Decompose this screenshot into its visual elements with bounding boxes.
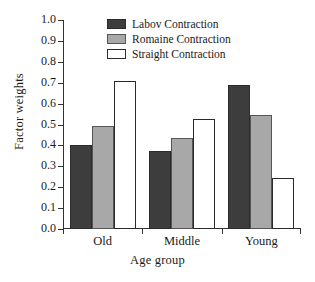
bar <box>193 119 215 229</box>
y-axis-tick <box>58 125 63 126</box>
bar-chart-figure: Factor weights 0.00.10.20.30.40.50.60.70… <box>0 0 315 282</box>
bar <box>149 151 171 229</box>
y-axis-tick-label: 0.1 <box>26 200 56 215</box>
legend-item-label: Romaine Contraction <box>132 33 231 45</box>
y-axis-tick-label: 0.5 <box>26 117 56 132</box>
y-axis-tick <box>58 20 63 21</box>
y-axis-tick-label: 1.0 <box>26 12 56 27</box>
legend-item-label: Labov Contraction <box>132 18 219 30</box>
y-axis-tick-label: 0.8 <box>26 54 56 69</box>
y-axis-tick <box>58 208 63 209</box>
y-axis-tick <box>58 166 63 167</box>
y-axis-tick-label: 0.6 <box>26 96 56 111</box>
legend-swatch-icon <box>107 34 126 44</box>
y-axis-tick-label: 0.0 <box>26 221 56 236</box>
x-axis-tick <box>300 229 301 234</box>
legend-item: Romaine Contraction <box>107 32 231 45</box>
x-axis-tick <box>63 229 64 234</box>
x-axis-tick-label: Middle <box>164 234 200 249</box>
x-axis-tick <box>142 229 143 234</box>
y-axis-title: Factor weights <box>12 52 27 172</box>
x-axis-title: Age group <box>0 253 315 268</box>
legend: Labov ContractionRomaine ContractionStra… <box>107 17 231 60</box>
y-axis-line <box>63 20 64 229</box>
x-axis-tick <box>222 229 223 234</box>
y-axis-tick <box>58 62 63 63</box>
y-axis-tick-label: 0.2 <box>26 179 56 194</box>
bar <box>272 178 294 229</box>
bar <box>228 85 250 229</box>
y-axis-tick-label: 0.7 <box>26 75 56 90</box>
y-axis-tick <box>58 187 63 188</box>
y-axis-tick <box>58 145 63 146</box>
bar <box>92 126 114 229</box>
bar <box>70 145 92 229</box>
legend-item: Labov Contraction <box>107 17 231 30</box>
bar <box>171 138 193 229</box>
legend-swatch-icon <box>107 49 126 59</box>
y-axis-tick-label: 0.3 <box>26 158 56 173</box>
y-axis-tick-label: 0.9 <box>26 33 56 48</box>
y-axis-tick-label: 0.4 <box>26 137 56 152</box>
bar <box>250 115 272 229</box>
y-axis-tick <box>58 83 63 84</box>
bar <box>114 81 136 229</box>
x-axis-tick-label: Young <box>245 234 278 249</box>
legend-item-label: Straight Contraction <box>132 48 226 60</box>
y-axis-tick <box>58 104 63 105</box>
legend-swatch-icon <box>107 19 126 29</box>
x-axis-tick-label: Old <box>93 234 112 249</box>
legend-item: Straight Contraction <box>107 47 231 60</box>
y-axis-tick <box>58 41 63 42</box>
